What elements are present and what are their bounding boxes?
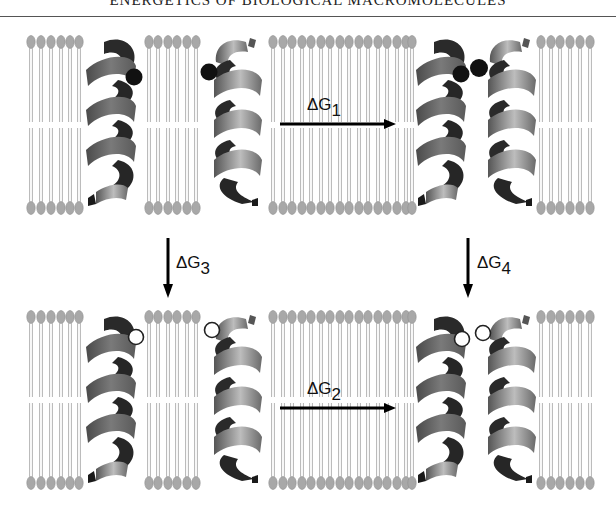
lipid-column-4 [537, 36, 594, 215]
arrow-dg3: ΔG3 [163, 238, 210, 298]
helix-b-monomer [214, 315, 262, 483]
bottom-panel: ΔG2 [27, 311, 594, 490]
lipid-column-2 [145, 311, 200, 490]
lipid-column-4 [537, 311, 594, 490]
charged-residue-b-dimer [470, 59, 488, 77]
helix-a-monomer [86, 316, 136, 483]
lipid-column-1 [27, 311, 83, 490]
lipid-column-3 [269, 311, 416, 490]
lipid-column-1 [27, 36, 83, 215]
neutral-residue-a-dimer [455, 332, 470, 347]
helix-a-dimer [416, 39, 466, 206]
helix-b-monomer [214, 38, 262, 206]
label-dg2: ΔG2 [307, 379, 341, 404]
charged-residue-a [126, 69, 143, 86]
helix-b-dimer [488, 38, 536, 206]
svg-text:ΔG4: ΔG4 [477, 253, 511, 278]
helix-a-monomer [86, 39, 136, 206]
membrane-helix-dimerization-figure: ΔG1 ΔG3 ΔG4 [0, 0, 616, 524]
arrow-dg4: ΔG4 [463, 238, 511, 298]
neutral-residue-b-dimer [476, 326, 491, 341]
svg-text:ΔG3: ΔG3 [176, 253, 210, 278]
arrow-dg1: ΔG1 [280, 95, 396, 129]
charged-residue-a-dimer [453, 66, 470, 83]
charged-residue-b [201, 64, 218, 81]
top-panel: ΔG1 [27, 36, 594, 215]
neutral-residue-b [205, 323, 220, 338]
neutral-residue-a [129, 330, 144, 345]
helix-b-dimer [488, 315, 536, 483]
arrow-dg2: ΔG2 [280, 379, 396, 413]
lipid-column-2 [145, 36, 200, 215]
